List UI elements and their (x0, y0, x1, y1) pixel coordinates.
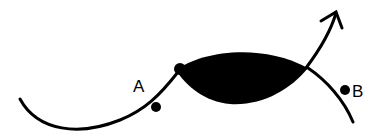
label-a: A (133, 78, 144, 95)
filled-lens (176, 52, 308, 104)
lower-right-curve (308, 68, 353, 122)
diagram-canvas (0, 0, 384, 138)
lens-tip-knob (174, 63, 186, 75)
label-b: B (352, 83, 363, 100)
left-curve (20, 72, 178, 129)
point-b-dot (340, 85, 350, 95)
point-a-dot (151, 102, 161, 112)
